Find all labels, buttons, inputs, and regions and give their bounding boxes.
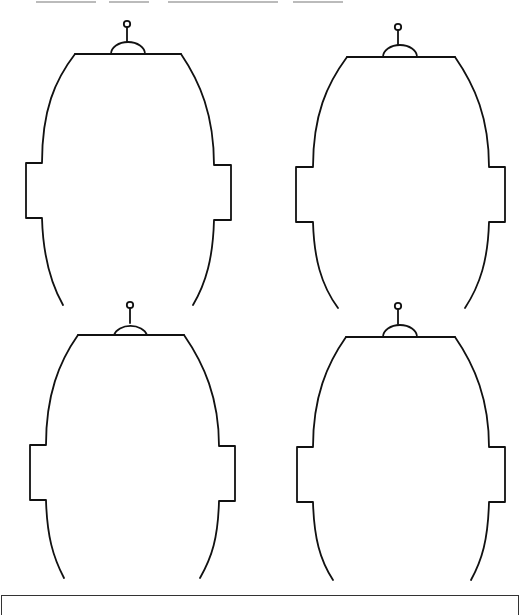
dome [383,325,417,337]
head-left-side [296,57,347,308]
answer-box [1,595,519,615]
dome [114,326,147,335]
head-right-side [181,54,231,305]
robot-head-top-right [296,24,505,308]
robot-head-top-left [26,21,231,305]
dome [383,45,417,57]
robot-head-bottom-left [30,302,235,578]
head-left-side [26,54,75,305]
robot-head-bottom-right [297,303,505,580]
head-right-side [455,57,505,308]
head-right-side [455,337,505,580]
dome [111,42,145,54]
head-left-side [297,337,346,580]
head-left-side [30,335,78,578]
head-right-side [184,335,235,578]
